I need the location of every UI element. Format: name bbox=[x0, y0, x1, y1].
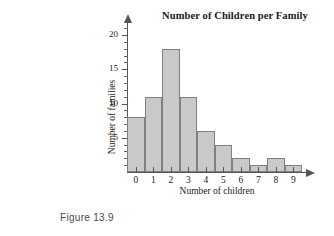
x-axis-tick bbox=[188, 167, 189, 172]
chart-area: Number of Children per Family 5101520 Nu… bbox=[0, 0, 334, 200]
x-axis-tick bbox=[136, 167, 137, 172]
figure-root: Number of Children per Family 5101520 Nu… bbox=[0, 0, 334, 236]
chart-title: Number of Children per Family bbox=[140, 10, 330, 21]
x-axis-tick bbox=[206, 167, 207, 172]
x-axis-tick-label: 9 bbox=[286, 175, 300, 185]
x-axis-tick-label: 8 bbox=[269, 175, 283, 185]
y-axis-title: Number of families bbox=[107, 57, 117, 177]
bar bbox=[145, 97, 163, 172]
x-axis-tick-label: 5 bbox=[216, 175, 230, 185]
x-axis-tick-label: 4 bbox=[199, 175, 213, 185]
x-axis-tick bbox=[241, 167, 242, 172]
x-axis-tick bbox=[171, 167, 172, 172]
x-axis-tick-label: 0 bbox=[129, 175, 143, 185]
x-axis-tick-label: 1 bbox=[146, 175, 160, 185]
bar bbox=[197, 131, 215, 172]
x-axis-tick-label: 2 bbox=[164, 175, 178, 185]
bar bbox=[180, 97, 198, 172]
x-axis-arrow-icon bbox=[306, 169, 315, 177]
bar bbox=[162, 49, 180, 172]
x-axis-tick-label: 6 bbox=[234, 175, 248, 185]
x-axis-tick bbox=[258, 167, 259, 172]
x-axis-tick bbox=[276, 167, 277, 172]
figure-caption: Figure 13.9 bbox=[60, 212, 114, 223]
bar bbox=[127, 117, 145, 172]
x-axis-tick-label: 3 bbox=[181, 175, 195, 185]
x-axis-tick bbox=[223, 167, 224, 172]
bar-series bbox=[127, 22, 307, 172]
y-axis-title-wrapper: Number of families bbox=[90, 20, 104, 170]
x-axis-tick bbox=[153, 167, 154, 172]
x-axis-tick bbox=[293, 167, 294, 172]
x-axis-tick-label: 7 bbox=[251, 175, 265, 185]
x-axis-title: Number of children bbox=[127, 186, 307, 196]
